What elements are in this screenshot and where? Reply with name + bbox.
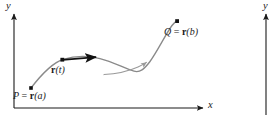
figure-canvas — [0, 0, 276, 119]
point-label-rt-parameter: (t) — [55, 64, 64, 75]
parametric-curve — [31, 21, 177, 88]
y-axis-label-left: y — [6, 1, 11, 12]
point-label-P-parameter: (a) — [34, 90, 46, 101]
point-label-rt: r(t) — [51, 65, 65, 75]
point-label-Q-parameter: (b) — [186, 26, 198, 37]
vector-function-figure: y x y P = r(a) r(t) Q = r(b) — [0, 0, 276, 119]
point-label-Q: Q = r(b) — [164, 27, 198, 37]
point-label-P-equals: = — [19, 90, 30, 101]
point-marker-rt — [60, 58, 64, 62]
point-label-P: P = r(a) — [13, 91, 46, 101]
point-label-Q-equals: = — [171, 26, 182, 37]
x-axis-label: x — [208, 100, 213, 111]
y-axis-label-right: y — [263, 1, 268, 12]
point-marker-Q — [175, 19, 179, 23]
